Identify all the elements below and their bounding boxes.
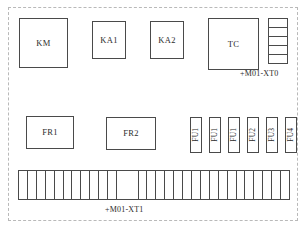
terminal-cell <box>269 28 287 37</box>
terminal-block-xt0-label: +M01-XT0 <box>240 70 279 78</box>
fuse-holder-6[interactable]: FU4 <box>285 117 297 153</box>
relay-ka2-label: KA2 <box>158 36 175 45</box>
terminal-cell <box>64 171 73 199</box>
fuse-holder-3-label: FU1 <box>230 128 238 142</box>
fuse-holder-5[interactable]: FU3 <box>266 117 278 153</box>
terminal-block-xt1[interactable] <box>18 170 290 200</box>
terminal-cell <box>55 171 64 199</box>
overload-relay-fr1-label: FR1 <box>42 128 58 137</box>
overload-relay-fr1[interactable]: FR1 <box>26 116 74 149</box>
terminal-cell <box>269 55 287 63</box>
relay-ka1[interactable]: KA1 <box>92 21 126 59</box>
transformer-tc-label: TC <box>228 40 239 49</box>
overload-relay-fr2-label: FR2 <box>123 129 139 138</box>
terminal-cell <box>210 171 219 199</box>
terminal-cell <box>192 171 201 199</box>
terminal-cell <box>147 171 156 199</box>
terminal-block-xt0[interactable] <box>268 18 288 64</box>
terminal-cell <box>139 171 148 199</box>
terminal-cell <box>81 171 90 199</box>
relay-ka2[interactable]: KA2 <box>150 21 184 59</box>
terminal-cell <box>269 37 287 46</box>
terminal-cell <box>183 171 192 199</box>
fuse-holder-2[interactable]: FU1 <box>209 117 221 153</box>
transformer-tc[interactable]: TC <box>208 18 259 70</box>
terminal-cell <box>37 171 46 199</box>
fuse-holder-4-label: FU2 <box>249 128 257 142</box>
overload-relay-fr2[interactable]: FR2 <box>106 117 156 150</box>
terminal-cell <box>165 171 174 199</box>
terminal-cell <box>263 171 272 199</box>
terminal-cell <box>174 171 183 199</box>
cabinet-layout-diagram: KM KA1 KA2 TC +M01-XT0 FR1 FR2 FU1 FU1 F… <box>0 0 307 233</box>
terminal-cell <box>219 171 228 199</box>
terminal-cell <box>46 171 55 199</box>
contactor-km[interactable]: KM <box>19 18 68 68</box>
terminal-cell <box>201 171 210 199</box>
fuse-holder-1-label: FU1 <box>192 128 200 142</box>
terminal-cell <box>254 171 263 199</box>
fuse-holder-4[interactable]: FU2 <box>247 117 259 153</box>
terminal-cell <box>269 46 287 55</box>
terminal-cell <box>228 171 237 199</box>
fuse-holder-2-label: FU1 <box>211 128 219 142</box>
terminal-cell <box>108 171 117 199</box>
terminal-cell <box>269 19 287 28</box>
terminal-cell <box>281 171 289 199</box>
terminal-cell <box>99 171 108 199</box>
fuse-holder-3[interactable]: FU1 <box>228 117 240 153</box>
terminal-cell-empty-slot <box>117 171 139 199</box>
relay-ka1-label: KA1 <box>100 36 117 45</box>
terminal-cell <box>90 171 99 199</box>
fuse-holder-6-label: FU4 <box>287 128 295 142</box>
terminal-cell <box>245 171 254 199</box>
terminal-cell <box>272 171 281 199</box>
fuse-holder-1[interactable]: FU1 <box>190 117 202 153</box>
terminal-cell <box>156 171 165 199</box>
fuse-holder-5-label: FU3 <box>268 128 276 142</box>
terminal-cell <box>28 171 37 199</box>
terminal-cell <box>72 171 81 199</box>
terminal-cell <box>19 171 28 199</box>
terminal-cell <box>237 171 246 199</box>
contactor-km-label: KM <box>36 39 50 48</box>
terminal-block-xt1-label: +M01-XT1 <box>105 206 144 214</box>
